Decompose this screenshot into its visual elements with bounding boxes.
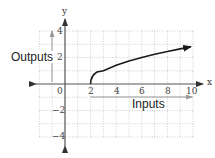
y-tick-4: 4 — [57, 27, 63, 36]
chart-canvas — [0, 0, 215, 158]
x-tick-2: 2 — [88, 87, 94, 96]
y-axis-label: y — [62, 7, 67, 16]
inputs-label: Inputs — [132, 98, 165, 110]
y-tick-neg2: −2 — [52, 106, 65, 115]
y-tick-2: 2 — [57, 53, 63, 62]
origin-label: 0 — [57, 87, 63, 96]
outputs-label: Outputs — [11, 51, 53, 63]
x-tick-10: 10 — [186, 87, 197, 96]
y-tick-neg4: −4 — [52, 132, 65, 141]
x-tick-8: 8 — [165, 87, 171, 96]
x-axis-label: x — [207, 78, 212, 87]
axes — [36, 19, 203, 146]
x-tick-6: 6 — [139, 87, 145, 96]
x-tick-4: 4 — [114, 87, 120, 96]
function-curve — [91, 47, 191, 84]
